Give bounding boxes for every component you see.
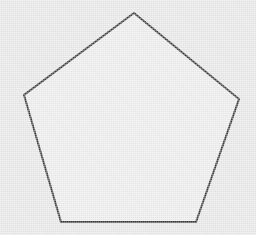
pentagon-svg <box>0 0 256 235</box>
pentagon-shape <box>24 13 239 222</box>
drawing-canvas <box>0 0 256 235</box>
